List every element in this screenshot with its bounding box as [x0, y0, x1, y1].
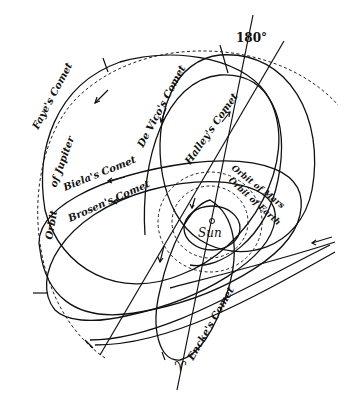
halley-orbit	[160, 55, 315, 252]
direction-label: 180°	[236, 31, 267, 45]
halley-label: Halley's Comet	[182, 91, 240, 167]
tick-mark	[103, 58, 108, 72]
arrow-icon	[95, 90, 108, 103]
arrow-icon	[108, 177, 125, 183]
aries-icon: ♈	[174, 358, 187, 374]
faye-label: Faye's Comet	[30, 60, 75, 131]
long-comet-orbit-2	[95, 252, 335, 345]
devico-label: De Vico's Comet	[135, 63, 188, 150]
tick-mark	[85, 340, 93, 348]
tick-mark	[220, 45, 228, 73]
comet-orbits-diagram: Sun 180° ♈ Faye's Comet De Vico's Comet …	[0, 0, 357, 408]
sun-label: Sun	[198, 226, 222, 240]
